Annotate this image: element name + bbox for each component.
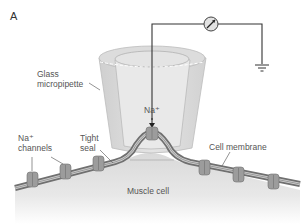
ammeter-icon <box>204 17 218 31</box>
na-channels-label-line1: Na⁺ <box>18 133 34 143</box>
glass-micropipette-label-line2: micropipette <box>37 79 83 89</box>
ground-icon <box>255 65 269 71</box>
cell-membrane-label: Cell membrane <box>209 142 267 152</box>
glass-micropipette-label-line1: Glass <box>37 69 59 79</box>
na-channels-label-line2: channels <box>18 143 52 153</box>
tight-seal-label-line1: Tight <box>80 133 99 143</box>
na-ion-label: Na⁺ <box>144 105 160 115</box>
muscle-cell-label: Muscle cell <box>127 186 169 196</box>
panel-label: A <box>10 11 17 21</box>
tight-seal-label-line2: seal <box>80 143 96 153</box>
